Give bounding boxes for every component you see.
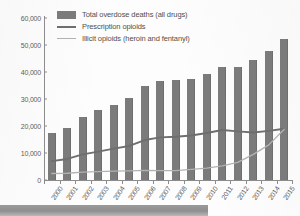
x-axis-tick-mark xyxy=(261,180,262,184)
x-axis-tick-mark xyxy=(44,180,45,184)
x-axis-tick-mark xyxy=(277,180,278,184)
x-axis-tick-label: 2012 xyxy=(235,185,249,201)
legend-swatch-bar-icon xyxy=(57,11,76,19)
y-axis-tick-label: 30,000 xyxy=(0,96,45,103)
x-axis-tick-label: 2007 xyxy=(158,185,172,201)
x-axis-tick-label: 2000 xyxy=(49,185,63,201)
x-axis-tick-mark xyxy=(292,180,293,184)
y-axis-tick-label: 40,000 xyxy=(0,69,45,76)
x-axis-tick-mark xyxy=(137,180,138,184)
x-axis-tick-label: 2013 xyxy=(251,185,265,201)
y-axis-tick-label: 20,000 xyxy=(0,123,45,130)
x-axis-tick-label: 2004 xyxy=(111,185,125,201)
x-axis-tick-label: 2010 xyxy=(204,185,218,201)
x-axis-tick-label: 2005 xyxy=(127,185,141,201)
bottom-caption-banner xyxy=(0,205,208,216)
x-axis-tick-label: 2015 xyxy=(282,185,296,201)
x-axis-tick-mark xyxy=(215,180,216,184)
x-axis-tick-mark xyxy=(75,180,76,184)
legend-swatch-line-light-icon xyxy=(57,38,76,39)
x-axis-tick-mark xyxy=(122,180,123,184)
legend-label: Illicit opioids (heroin and fentanyl) xyxy=(82,34,190,43)
x-axis-tick-mark xyxy=(106,180,107,184)
x-axis-tick-mark xyxy=(230,180,231,184)
x-axis-tick-mark xyxy=(199,180,200,184)
y-axis-tick-label: 0 xyxy=(0,177,45,184)
x-axis-tick-mark xyxy=(184,180,185,184)
legend-label: Total overdose deaths (all drugs) xyxy=(82,10,188,19)
x-axis-tick-label: 2008 xyxy=(173,185,187,201)
x-axis-tick-label: 2003 xyxy=(96,185,110,201)
x-axis-tick-label: 2011 xyxy=(220,185,234,201)
x-axis-tick-mark xyxy=(168,180,169,184)
y-axis-tick-label: 60,000 xyxy=(0,15,45,22)
x-axis-tick-label: 2002 xyxy=(80,185,94,201)
chart-legend: Total overdose deaths (all drugs) Prescr… xyxy=(57,9,247,45)
legend-label: Prescription opioids xyxy=(82,22,145,31)
legend-item-total-overdose-deaths: Total overdose deaths (all drugs) xyxy=(57,9,247,20)
legend-item-illicit-opioids: Illicit opioids (heroin and fentanyl) xyxy=(57,33,247,44)
x-axis-tick-label: 2009 xyxy=(189,185,203,201)
chart-page: 010,00020,00030,00040,00050,00060,000 20… xyxy=(0,0,300,216)
x-axis-tick-mark xyxy=(246,180,247,184)
line-illicit-opioids xyxy=(52,129,285,173)
x-axis-tick-mark xyxy=(91,180,92,184)
x-axis-tick-label: 2006 xyxy=(142,185,156,201)
legend-swatch-line-icon xyxy=(57,26,76,28)
x-axis-tick-label: 2001 xyxy=(65,185,79,201)
x-axis-tick-mark xyxy=(153,180,154,184)
x-axis-tick-mark xyxy=(60,180,61,184)
legend-item-prescription-opioids: Prescription opioids xyxy=(57,21,247,32)
y-axis-tick-label: 10,000 xyxy=(0,150,45,157)
y-axis-tick-label: 50,000 xyxy=(0,42,45,49)
x-axis-tick-label: 2014 xyxy=(266,185,280,201)
